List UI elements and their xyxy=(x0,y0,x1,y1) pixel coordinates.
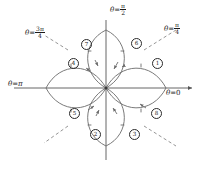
arrow-petal-3 xyxy=(113,108,117,114)
arrow-petal-6 xyxy=(114,62,118,69)
fraction-denominator-top: 2 xyxy=(120,10,126,16)
petal-order-4: 4 xyxy=(68,58,79,69)
fraction-pi-over-2: π2 xyxy=(120,3,126,17)
polar-rose-figure: θ=0 θ=π θ=π2 θ=π4 θ=3π4 1 2 3 4 5 6 7 8 xyxy=(0,0,210,173)
arrow-petal-7 xyxy=(95,60,98,66)
petal-order-6: 6 xyxy=(131,38,142,49)
ray-7pi-over-4 xyxy=(144,126,176,146)
axis-label-theta-0: θ=0 xyxy=(166,90,181,97)
value-right: 0 xyxy=(176,89,180,97)
fraction-denominator-upper-right: 4 xyxy=(174,29,180,35)
petal-order-7: 7 xyxy=(81,39,92,50)
fraction-3pi-over-4: 3π4 xyxy=(35,26,45,40)
arrow-petal-1 xyxy=(122,66,124,67)
ray-3pi-over-4 xyxy=(44,35,68,50)
axis-label-theta-pi: θ=π xyxy=(8,81,23,88)
value-left: π xyxy=(18,80,23,88)
ray-5pi-over-4 xyxy=(44,126,68,143)
petal-order-1: 1 xyxy=(152,58,163,69)
petal-order-2: 2 xyxy=(90,129,101,140)
axis-label-theta-pi-over-4: θ=π4 xyxy=(164,22,180,36)
fraction-denominator-upper-left: 4 xyxy=(35,33,45,39)
axis-label-theta-pi-over-2: θ=π2 xyxy=(110,3,126,17)
petal-order-5: 5 xyxy=(69,108,80,119)
axis-label-theta-3pi-over-4: θ=3π4 xyxy=(25,26,45,40)
petal-order-8: 8 xyxy=(151,108,162,119)
petal-order-3: 3 xyxy=(129,129,140,140)
arrow-petal-2 xyxy=(96,110,99,116)
origin-point xyxy=(105,87,108,90)
fraction-pi-over-4: π4 xyxy=(174,22,180,36)
